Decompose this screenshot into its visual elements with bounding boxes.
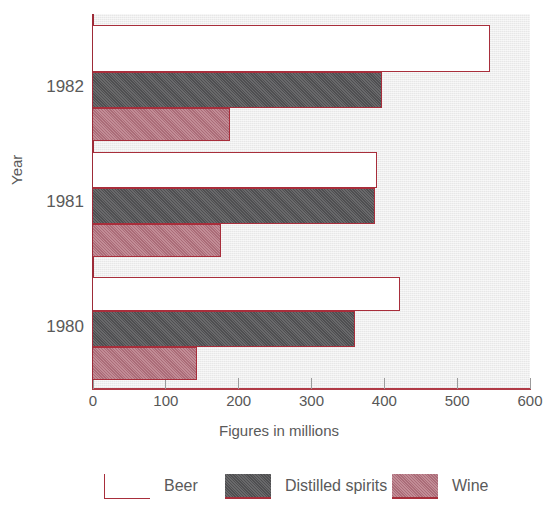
- chart-title-cutoff: [0, 0, 558, 5]
- x-tick-label: 500: [445, 392, 470, 409]
- legend-item-distilled-spirits[interactable]: Distilled spirits: [225, 466, 387, 506]
- x-tick-label: 200: [226, 392, 251, 409]
- x-tick-label: 400: [372, 392, 397, 409]
- spirits-swatch: [225, 474, 271, 499]
- x-tick-label: 600: [517, 392, 542, 409]
- x-tick: [384, 378, 385, 389]
- bar-beer: [93, 152, 377, 188]
- bar-wine: [93, 347, 197, 380]
- x-tick: [311, 378, 312, 389]
- legend-label: Beer: [164, 477, 198, 495]
- y-axis-title: Year: [8, 155, 25, 185]
- y-axis-group-label-1981: 1981: [22, 192, 84, 212]
- bar-wine: [93, 224, 221, 257]
- x-tick: [530, 378, 531, 389]
- bar-beer: [93, 277, 400, 311]
- bar-distilled-spirits: [93, 72, 382, 108]
- legend-label: Distilled spirits: [285, 477, 387, 495]
- y-axis-group-label-1982: 1982: [22, 77, 84, 97]
- x-tick: [238, 378, 239, 389]
- x-tick-label: 100: [153, 392, 178, 409]
- chart-legend: BeerDistilled spiritsWine: [0, 466, 558, 510]
- wine-swatch: [392, 474, 438, 499]
- x-tick-label: 0: [89, 392, 97, 409]
- x-axis-title: Figures in millions: [0, 422, 558, 439]
- bar-distilled-spirits: [93, 311, 355, 347]
- bar-distilled-spirits: [93, 188, 375, 224]
- legend-item-wine[interactable]: Wine: [392, 466, 488, 506]
- beer-swatch: [104, 474, 150, 499]
- bar-chart: 0100200300400500600 198219811980 Figures…: [0, 0, 558, 517]
- y-axis-group-label-1980: 1980: [22, 317, 84, 337]
- legend-item-beer[interactable]: Beer: [104, 466, 198, 506]
- legend-label: Wine: [452, 477, 488, 495]
- bar-beer: [93, 25, 490, 72]
- x-tick-label: 300: [299, 392, 324, 409]
- bar-wine: [93, 108, 230, 141]
- x-tick: [457, 378, 458, 389]
